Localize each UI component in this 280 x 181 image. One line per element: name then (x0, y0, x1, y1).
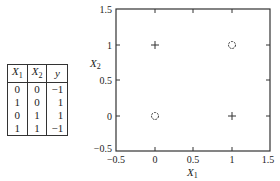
x-tick-label: 1 (230, 154, 235, 165)
x-tick-label: −0.5 (107, 154, 125, 165)
y-axis-ticks (116, 45, 270, 116)
x-tick-label: 0 (153, 154, 158, 165)
x-axis-label: X1 (186, 166, 198, 180)
plot-frame (116, 9, 270, 151)
circle-marker (152, 113, 159, 120)
y-tick-label: 1.5 (100, 4, 113, 15)
y-tick-label: 0 (107, 111, 112, 122)
y-axis-label: X2 (89, 57, 101, 71)
x-axis-ticks (155, 9, 232, 151)
y-tick-label: 1 (107, 40, 112, 51)
x-tick-label: 1.5 (262, 154, 275, 165)
y-tick-label: 0.5 (100, 75, 113, 86)
y-tick-label: −0.5 (94, 143, 112, 154)
plus-marker (151, 41, 159, 49)
plus-marker (228, 112, 236, 120)
scatter-plot: −0.5 0 0.5 1 1.5 1.5 1 0.5 0 −0.5 X1 X2 (0, 0, 280, 181)
circle-marker (229, 42, 236, 49)
x-tick-label: 0.5 (187, 154, 200, 165)
